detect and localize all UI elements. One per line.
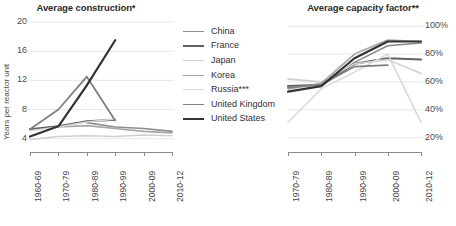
x-tick-label: 2000-09 [148,171,157,202]
legend-item-label: France [211,41,239,50]
x-tick-label: 1970-79 [292,171,301,202]
x-axis-tick [115,152,116,156]
legend-item-united-kingdom[interactable]: United Kingdom [183,97,275,112]
plot-area-left [0,0,180,160]
x-axis-tick [144,152,145,156]
legend-color-swatch [183,45,204,47]
legend-item-label: United Kingdom [211,100,275,109]
legend-color-swatch [183,104,204,105]
x-axis-tick [355,152,356,156]
plot-area-right [285,0,456,160]
x-axis-tick [321,152,322,156]
legend-item-france[interactable]: France [183,39,275,54]
chart-panel-average-construction: Average construction* Years per reactor … [0,0,180,226]
legend-color-swatch [183,75,204,76]
legend-item-japan[interactable]: Japan [183,53,275,68]
legend-item-label: China [211,27,235,36]
legend-item-united-states[interactable]: United States [183,112,275,127]
x-axis-tick [421,152,422,156]
legend-item-label: United States [211,114,265,123]
legend-item-korea[interactable]: Korea [183,68,275,83]
legend-item-label: Japan [211,56,236,65]
x-axis-tick [172,152,173,156]
x-tick-label: 2000-09 [392,171,401,202]
x-tick-label: 2010-12 [176,171,185,202]
x-axis-tick [58,152,59,156]
legend-color-swatch [183,60,204,61]
x-tick-label: 1960-69 [34,171,43,202]
x-tick-label: 1990-99 [359,171,368,202]
x-tick-label: 1990-99 [119,171,128,202]
legend-color-swatch [183,31,204,32]
x-tick-label: 2010-12 [425,171,434,202]
x-tick-label: 1970-79 [62,171,71,202]
chart-legend: ChinaFranceJapanKoreaRussia***United Kin… [183,24,275,126]
legend-color-swatch [183,118,204,120]
x-axis-line [30,152,172,153]
legend-item-china[interactable]: China [183,24,275,39]
chart-panel-average-capacity-factor: Average capacity factor** 20%40%60%80%10… [285,0,456,226]
nuclear-reactor-charts-figure: Average construction* Years per reactor … [0,0,456,226]
x-tick-label: 1980-89 [325,171,334,202]
legend-color-swatch [183,89,204,90]
x-tick-label: 1980-89 [91,171,100,202]
x-axis-tick [288,152,289,156]
x-axis-tick [87,152,88,156]
x-axis-tick [30,152,31,156]
x-axis-tick [388,152,389,156]
legend-item-label: Korea [211,71,235,80]
legend-item-russia[interactable]: Russia*** [183,82,275,97]
legend-item-label: Russia*** [211,85,249,94]
